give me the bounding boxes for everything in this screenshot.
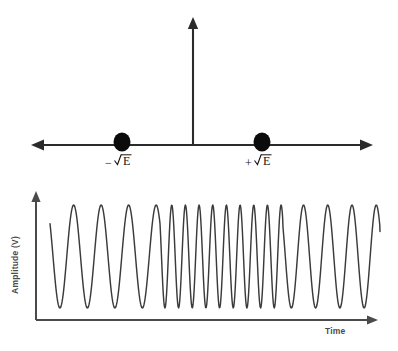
x-axis-label: Time [325, 326, 346, 336]
sqrt-radical-icon-positive [255, 155, 262, 165]
sqrt-radical-icon-negative [115, 155, 122, 165]
figure-root: − E + E [0, 0, 398, 351]
radicand-label-positive: E [263, 154, 270, 168]
constellation-label-negative: − E [105, 154, 132, 170]
radicand-label-negative: E [123, 154, 130, 168]
minus-sign: − [105, 156, 112, 170]
y-axis-label: Amplitude (V) [10, 236, 20, 294]
bfsk-figure-canvas: − E + E [0, 0, 398, 351]
constellation-dot-positive[interactable] [254, 133, 271, 152]
up-arrow-head-icon [188, 17, 198, 29]
constellation-dot-negative[interactable] [114, 133, 131, 152]
constellation-point-positive[interactable]: + E [245, 133, 272, 171]
plus-sign: + [245, 156, 252, 170]
right-arrow-head-icon [360, 140, 373, 151]
bfsk-waveform-trace [50, 205, 380, 308]
constellation-point-negative[interactable]: − E [105, 133, 132, 171]
waveform-plot: Time Amplitude (V) [10, 191, 380, 336]
constellation-diagram: − E + E [31, 17, 373, 170]
constellation-label-positive: + E [245, 154, 272, 170]
waveform-y-arrow-head-icon [31, 191, 40, 202]
left-arrow-head-icon [31, 140, 44, 151]
waveform-x-arrow-head-icon [367, 315, 378, 324]
